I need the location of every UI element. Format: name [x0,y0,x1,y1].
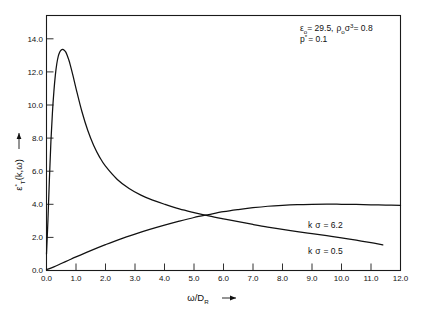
x-axis-ticks [47,264,401,271]
svg-text:kσ= 0.5: kσ= 0.5 [308,246,343,256]
x-axis-sub-r: R [204,298,209,305]
x-tick-label: 1.0 [70,274,82,283]
curve-label-k-sigma-6-2: kσ= 6.2 [308,220,343,230]
x-tick-label: 9.0 [306,274,318,283]
annot-epsilon-value: = 29.5, [307,23,333,33]
y-tick-label: 10.0 [27,101,43,110]
y-axis-tick-labels: 0.0 2.0 4.0 6.0 8.0 10.0 12.0 14.0 [27,35,43,276]
y-tick-label: 6.0 [32,167,44,176]
label-sigma-symbol: σ [315,246,321,256]
annotation-line-2: p*= 0.1 [300,33,328,45]
plot-canvas: 0.0 2.0 4.0 6.0 8.0 10.0 12.0 14.0 [0,0,427,314]
x-tick-label: 11.0 [364,274,380,283]
parameter-annotation: εo= 29.5,ρoσ3= 0.8 p*= 0.1 [300,22,373,45]
y-axis-args: (k,ω) [13,159,24,180]
x-tick-label: 0.0 [41,274,53,283]
x-axis-tick-labels: 0.0 1.0 2.0 3.0 4.0 5.0 6.0 7.0 8.0 9.0 … [41,274,409,283]
label-sigma-symbol: σ [315,220,321,230]
x-tick-label: 2.0 [100,274,112,283]
label-k-symbol: k [308,220,313,230]
x-axis-arrow-head [230,296,236,301]
x-tick-label: 7.0 [247,274,259,283]
x-tick-label: 3.0 [129,274,141,283]
x-tick-label: 12.0 [393,274,409,283]
data-curves [47,49,401,269]
y-tick-label: 12.0 [27,68,43,77]
x-tick-label: 6.0 [218,274,230,283]
x-tick-label: 10.0 [334,274,350,283]
annotation-line-1: εo= 29.5,ρoσ3= 0.8 [300,22,373,35]
figure-container: 0.0 2.0 4.0 6.0 8.0 10.0 12.0 14.0 [0,0,427,314]
y-tick-label: 4.0 [32,200,44,209]
y-axis-arrow-head [17,133,22,139]
y-axis-title: ε*T(k,ω) [13,133,26,191]
x-tick-label: 8.0 [277,274,289,283]
x-axis-title: ω/DR [187,292,236,305]
svg-text:kσ= 6.2: kσ= 6.2 [308,220,343,230]
annot-rho-value: = 0.8 [353,23,372,33]
x-tick-label: 5.0 [188,274,200,283]
annot-p-value: = 0.1 [308,34,327,44]
y-tick-label: 8.0 [32,134,44,143]
svg-text:ε*T(k,ω): ε*T(k,ω) [13,159,26,191]
label-k-symbol: k [308,246,313,256]
label-value: = 0.5 [324,246,343,256]
x-tick-label: 4.0 [159,274,171,283]
svg-text:ω/DR: ω/DR [187,292,209,305]
label-value: = 6.2 [324,220,343,230]
y-tick-label: 2.0 [32,233,44,242]
curve-label-k-sigma-0-5: kσ= 0.5 [308,246,343,256]
plot-frame [47,16,401,271]
x-axis-slash-d: /D [195,292,205,303]
curve-k-sigma-6-2 [47,204,401,270]
y-tick-label: 14.0 [27,35,43,44]
